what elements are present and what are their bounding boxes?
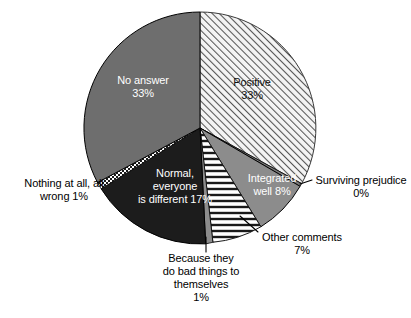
slice-label-normal-everyone-different: Normal, everyone is different 17% <box>132 167 218 206</box>
slice-label-no-answer: No answer 33% <box>100 74 186 100</box>
slice-label-because-bad-things: Because they do bad things to themselves… <box>146 252 256 304</box>
slice-label-integrated-well: Integrated well 8% <box>236 172 308 198</box>
slice-label-surviving-prejudice: Surviving prejudice 0% <box>311 174 411 200</box>
pie-chart-figure: Positive 33% No answer 33% Normal, every… <box>0 0 411 318</box>
slice-label-nothing-at-all: Nothing at all, all wrong 1% <box>8 177 120 203</box>
pie-slices <box>84 12 316 244</box>
slice-label-positive: Positive 33% <box>216 76 288 102</box>
slice-label-other-comments: Other comments 7% <box>251 231 353 257</box>
